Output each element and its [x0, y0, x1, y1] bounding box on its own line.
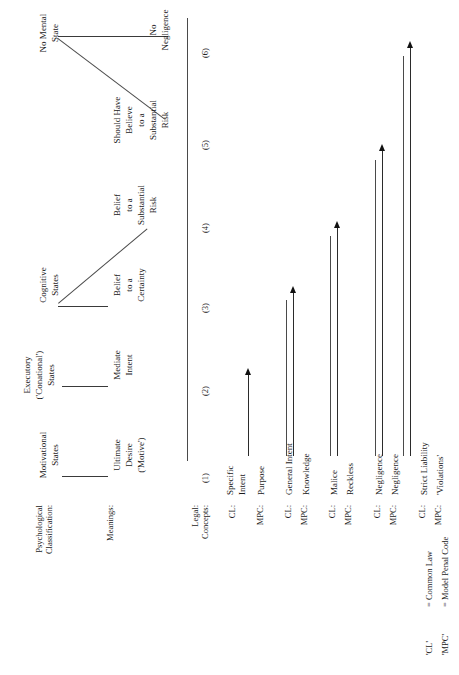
- legal-term: Strict Liability: [419, 385, 430, 495]
- scope-arrow-knowledge-stem: [293, 292, 294, 456]
- group-heading-motivational-line2: States: [50, 410, 61, 500]
- meaning-belief-substantial-risk-line2: to a: [124, 160, 135, 250]
- legal-term: Reckless: [345, 385, 356, 495]
- legal-source-marker: MPC:: [299, 505, 309, 655]
- scope-arrow-reckless-head: [334, 221, 340, 228]
- group-heading-no-mental-state-line1: No Mental: [38, 0, 49, 78]
- meaning-should-have-believe-line5: Risk: [160, 75, 171, 165]
- meaning-should-have-believe-line1: Should Have: [112, 75, 123, 165]
- row-label-legal-line2: Concepts:: [200, 505, 210, 655]
- legal-source-marker: CL:: [327, 505, 337, 655]
- column-number: (4): [200, 193, 210, 233]
- scope-arrow-negligence-stem: [382, 150, 383, 456]
- group-heading-cognitive-line1: Cognitive: [38, 240, 49, 330]
- column-number: (2): [200, 356, 210, 396]
- meaning-should-have-believe-line4: Substantial: [148, 75, 159, 165]
- meaning-no-negligence-line2: Negligence: [160, 0, 171, 75]
- meaning-belief-certainty-line1: Belief: [112, 240, 123, 330]
- meaning-belief-substantial-risk-line1: Belief: [112, 160, 123, 250]
- column-number: (5): [200, 110, 210, 150]
- row-label-psychological-line1: Psychological: [34, 505, 44, 655]
- legal-term: Purpose: [256, 385, 267, 495]
- scope-arrow-negligence-head: [379, 144, 385, 151]
- legal-term: Knowledge: [301, 385, 312, 495]
- scope-arrow-strict-liability-stem: [410, 47, 411, 456]
- meaning-ultimate-desire-line3: ('Motive'): [136, 410, 147, 500]
- connector-executory: [62, 386, 108, 387]
- meaning-belief-certainty-line3: Certainty: [136, 240, 147, 330]
- legal-source-marker: CL:: [283, 505, 293, 655]
- group-heading-motivational-line1: Motivational: [38, 410, 49, 500]
- scope-arrow-strict-liability-head: [407, 41, 413, 48]
- row-label-legal-line1: Legal:: [190, 505, 200, 655]
- column-number: (3): [200, 273, 210, 313]
- legal-term: Negligence: [390, 385, 401, 495]
- legal-source-marker: MPC:: [255, 505, 265, 655]
- legal-source-marker: MPC:: [343, 505, 353, 655]
- legend-definition: = Common Law: [424, 497, 434, 607]
- column-number: (6): [200, 18, 210, 58]
- legal-source-marker: CL:: [372, 505, 382, 655]
- meaning-belief-certainty-line2: to a: [124, 240, 135, 330]
- connector-motivational: [62, 476, 108, 477]
- meaning-ultimate-desire-line1: Ultimate: [112, 410, 123, 500]
- meaning-should-have-believe-line3: to a: [136, 75, 147, 165]
- legal-term: Specific: [225, 385, 236, 495]
- meaning-belief-substantial-risk-line3: Substantial: [136, 160, 147, 250]
- meaning-mediate-intent-line2: Intent: [124, 320, 135, 410]
- legend-definition: = Model Penal Code: [440, 497, 450, 607]
- meaning-mediate-intent-line1: Mediate: [112, 320, 123, 410]
- group-heading-executory-line1: Executory: [22, 330, 33, 420]
- scope-arrow-purpose-head: [245, 368, 251, 375]
- row-label-psychological-line2: Classification:: [44, 505, 54, 655]
- scope-arrow-knowledge-head: [290, 286, 296, 293]
- meaning-should-have-believe-line2: Believe: [124, 75, 135, 165]
- legal-term-cont: Intent: [237, 385, 248, 495]
- group-heading-executory-line2: ('Conational'): [34, 330, 45, 420]
- row-label-meanings: Meanings:: [105, 505, 115, 655]
- column-number: (1): [200, 443, 210, 483]
- legal-source-marker: CL:: [227, 505, 237, 655]
- meaning-belief-substantial-risk-line4: Risk: [148, 160, 159, 250]
- scope-arrow-purpose-stem: [248, 374, 249, 456]
- pair-tick: [375, 160, 376, 456]
- group-heading-cognitive-line2: States: [50, 240, 61, 330]
- group-heading-executory-line3: States: [46, 330, 57, 420]
- pair-tick: [403, 56, 404, 456]
- pair-tick: [330, 236, 331, 456]
- pair-tick: [286, 300, 287, 456]
- legal-term: 'Violations': [435, 385, 446, 495]
- meaning-no-negligence-line1: No: [148, 0, 159, 75]
- meaning-ultimate-desire-line2: Desire: [124, 410, 135, 500]
- legal-source-marker: MPC:: [388, 505, 398, 655]
- legal-concepts-axis: [187, 18, 188, 461]
- connector-cognitive-certainty: [58, 306, 108, 307]
- scope-arrow-reckless-stem: [337, 227, 338, 456]
